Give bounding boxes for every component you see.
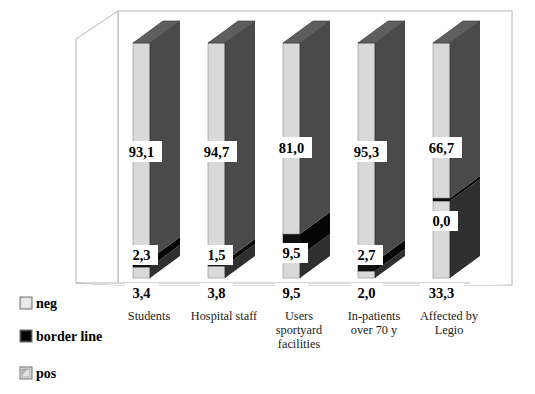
value-label-neg-1: 94,7 xyxy=(204,144,229,160)
legend: neg border line pos xyxy=(20,296,102,381)
legend-item-pos[interactable]: pos xyxy=(20,366,57,381)
category-label-legio-line2: Legio xyxy=(435,323,464,337)
value-label-neg-3: 95,3 xyxy=(354,144,379,160)
value-label-pos-0: 3,4 xyxy=(132,285,150,301)
value-label-pos-4: 33,3 xyxy=(429,285,454,301)
category-axis-labels: Students Hospital staff Users sportyard … xyxy=(128,309,479,351)
chart-container: 93,1 94,7 81,0 95,3 66,7 2,3 1,5 9,5 2,7… xyxy=(0,0,535,394)
value-label-border-1: 1,5 xyxy=(207,247,225,263)
value-labels-pos: 3,4 3,8 9,5 2,0 33,3 xyxy=(125,283,464,302)
category-label-inpatients-line2: over 70 y xyxy=(351,323,398,337)
value-label-neg-4: 66,7 xyxy=(429,140,454,156)
value-label-pos-3: 2,0 xyxy=(357,285,375,301)
value-label-neg-0: 93,1 xyxy=(129,144,154,160)
category-label-students: Students xyxy=(128,309,171,323)
legend-label-neg: neg xyxy=(36,296,57,311)
legend-label-border-line: border line xyxy=(36,329,102,344)
value-label-border-0: 2,3 xyxy=(132,247,150,263)
value-label-pos-2: 9,5 xyxy=(282,285,300,301)
legend-label-pos: pos xyxy=(36,366,57,381)
category-label-hospital-staff: Hospital staff xyxy=(191,309,258,323)
value-label-border-2: 9,5 xyxy=(282,245,300,261)
category-label-users-line1: Users xyxy=(285,309,313,323)
category-label-legio-line1: Affected by xyxy=(420,309,479,323)
value-label-border-3: 2,7 xyxy=(357,247,375,263)
legend-item-neg[interactable]: neg xyxy=(20,296,57,311)
value-label-border-4: 0,0 xyxy=(432,213,450,229)
category-label-users-line2: sportyard xyxy=(276,323,322,337)
stacked-3d-column-chart: 93,1 94,7 81,0 95,3 66,7 2,3 1,5 9,5 2,7… xyxy=(0,0,535,394)
legend-item-border-line[interactable]: border line xyxy=(20,329,102,344)
value-label-pos-1: 3,8 xyxy=(207,285,225,301)
value-label-neg-2: 81,0 xyxy=(279,140,304,156)
category-label-inpatients-line1: In-patients xyxy=(348,309,401,323)
category-label-users-line3: facilities xyxy=(278,337,321,351)
